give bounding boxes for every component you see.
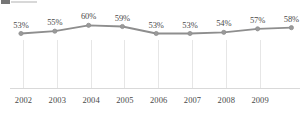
data-point-label: 55% xyxy=(47,17,62,27)
data-point-label: 53% xyxy=(149,20,164,30)
data-point-marker[interactable] xyxy=(256,27,260,31)
data-point-label: 54% xyxy=(216,18,231,28)
x-axis-tick-label: 2007 xyxy=(184,95,201,105)
data-point-marker[interactable] xyxy=(222,30,226,34)
x-axis-tick-label: 2003 xyxy=(49,95,66,105)
x-axis-tick-label: 2002 xyxy=(15,95,32,105)
data-point-marker[interactable] xyxy=(289,26,293,30)
data-point-marker[interactable] xyxy=(188,31,192,35)
data-point-label: 57% xyxy=(250,15,265,25)
data-point-label: 53% xyxy=(182,20,197,30)
data-point-marker[interactable] xyxy=(19,31,23,35)
data-point-marker[interactable] xyxy=(53,29,57,33)
gridlines-group xyxy=(24,40,261,88)
x-axis-tick-label: 2008 xyxy=(218,95,235,105)
data-point-marker[interactable] xyxy=(120,24,124,28)
data-point-label: 53% xyxy=(13,20,28,30)
x-axis-tick-label: 2005 xyxy=(116,95,133,105)
x-axis-tick-label: 2009 xyxy=(251,95,268,105)
data-point-marker[interactable] xyxy=(154,31,158,35)
data-point-label: 59% xyxy=(115,13,130,23)
data-point-marker[interactable] xyxy=(87,23,91,27)
data-point-label: 60% xyxy=(81,11,96,21)
x-axis-tick-label: 2004 xyxy=(82,95,99,105)
data-point-label: 58% xyxy=(284,14,299,24)
x-axis-tick-label: 2006 xyxy=(150,95,167,105)
line-chart: 53%55%60%59%53%53%54%57%58% 200220032004… xyxy=(0,0,305,117)
